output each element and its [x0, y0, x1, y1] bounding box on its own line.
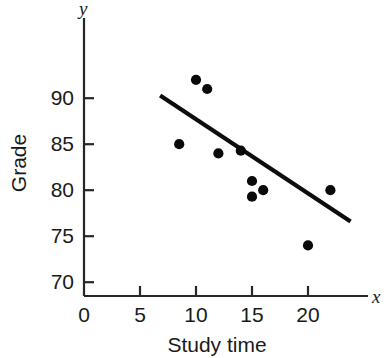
data-point [258, 185, 268, 195]
scatter-plot-figure: y x Study time Grade 7075808590 05101520 [0, 0, 390, 358]
data-point [325, 185, 335, 195]
y-tick-label: 85 [51, 132, 74, 155]
y-tick-label: 80 [51, 178, 74, 201]
x-tick-label: 20 [296, 303, 319, 326]
x-axis-letter: x [371, 286, 381, 307]
x-tick-label: 10 [184, 303, 207, 326]
data-point [303, 240, 313, 250]
x-tick-label: 15 [240, 303, 263, 326]
chart-canvas: y x Study time Grade 7075808590 05101520 [0, 0, 390, 358]
y-tick-label: 90 [51, 86, 74, 109]
data-point [247, 192, 257, 202]
y-tick-label: 75 [51, 224, 74, 247]
x-tick-label: 0 [78, 303, 90, 326]
data-point [213, 148, 223, 158]
y-axis-title: Grade [7, 134, 30, 192]
x-axis-title: Study time [167, 333, 266, 356]
y-axis-letter: y [77, 0, 88, 19]
data-point [202, 84, 212, 94]
y-tick-label: 70 [51, 270, 74, 293]
data-point [191, 75, 201, 85]
x-tick-label: 5 [134, 303, 146, 326]
data-point [247, 176, 257, 186]
data-point [236, 146, 246, 156]
data-point [174, 139, 184, 149]
